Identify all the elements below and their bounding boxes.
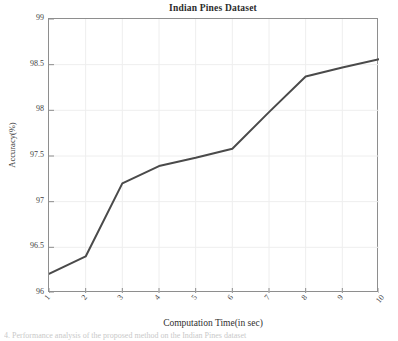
- chart-title: Indian Pines Dataset: [48, 3, 378, 13]
- x-tick-label: 4: [153, 293, 163, 302]
- accuracy-line-series: [49, 59, 379, 274]
- y-tick-label: 96: [4, 287, 44, 296]
- y-tick-label: 99: [4, 13, 44, 22]
- x-tick-label: 1: [43, 293, 53, 302]
- gridlines: [49, 19, 379, 293]
- x-tick-label: 8: [299, 293, 309, 302]
- x-tick-label: 10: [374, 293, 386, 305]
- y-tick-label: 97: [4, 196, 44, 205]
- x-axis-label: Computation Time(in sec): [48, 318, 378, 328]
- x-tick-label: 6: [226, 293, 236, 302]
- y-tick-label: 98: [4, 104, 44, 113]
- y-tick-label: 98.5: [4, 59, 44, 68]
- x-tick-label: 7: [263, 293, 273, 302]
- x-tick-label: 9: [336, 293, 346, 302]
- plot-area: [48, 18, 378, 292]
- y-tick-label: 97.5: [4, 150, 44, 159]
- x-tick-label: 5: [189, 293, 199, 302]
- x-tick-label-group: 12345678910: [48, 293, 378, 319]
- figure-caption: 4. Performance analysis of the proposed …: [4, 331, 398, 340]
- y-tick-label-group: 9696.59797.59898.599: [0, 18, 44, 292]
- x-tick-label: 3: [116, 293, 126, 302]
- figure-container: Indian Pines Dataset Accuracy(%) 9696.59…: [0, 0, 398, 341]
- x-tick-label: 2: [79, 293, 89, 302]
- y-tick-label: 96.5: [4, 241, 44, 250]
- plot-svg: [49, 19, 379, 293]
